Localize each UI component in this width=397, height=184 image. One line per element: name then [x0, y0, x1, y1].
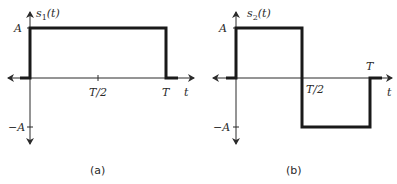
caption-a: (a) [90, 164, 105, 177]
ytick-label-A: A [218, 22, 227, 35]
ytick-label-negA: −A [8, 121, 25, 134]
xtick-label-T-half: T/2 [89, 86, 107, 99]
ylabel-s2: s2(t) [247, 7, 271, 22]
plot-b: s2(t) A −A T/2 T t (b) [213, 7, 392, 177]
xlabel-t: t [387, 86, 392, 99]
ytick-label-A: A [13, 22, 22, 35]
xtick-label-T: T [162, 86, 171, 99]
ytick-label-negA: −A [213, 121, 230, 134]
plot-a: s1(t) A −A T/2 T t (a) [8, 7, 194, 177]
xtick-label-T-half: T/2 [306, 83, 324, 96]
signal-diagrams: s1(t) A −A T/2 T t (a) s2(t) A −A T/2 T … [0, 0, 397, 184]
xtick-label-T: T [366, 60, 375, 73]
ylabel-s1: s1(t) [36, 7, 60, 22]
signal-s1 [20, 28, 178, 78]
caption-b: (b) [286, 164, 302, 177]
xlabel-t: t [184, 86, 189, 99]
